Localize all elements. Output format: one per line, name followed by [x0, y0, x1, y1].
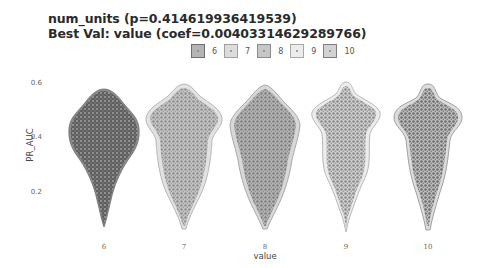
x-tick-8: 8	[263, 243, 267, 251]
y-tick-0.2: 0.2	[31, 188, 42, 196]
x-tick-9: 9	[344, 243, 348, 251]
y-axis-label: PR_AUC	[25, 128, 35, 161]
violin-10[interactable]	[394, 84, 462, 230]
violin-plot: 0.6 0.4 0.2 PR_AUC 6 7 8 9 10 value	[0, 0, 488, 268]
y-tick-0.6: 0.6	[31, 79, 43, 87]
violin-6[interactable]	[69, 89, 139, 227]
violin-8[interactable]	[230, 85, 300, 229]
x-tick-7: 7	[182, 243, 186, 251]
x-axis-label: value	[253, 251, 276, 261]
violin-7[interactable]	[146, 84, 222, 229]
x-tick-6: 6	[102, 243, 107, 251]
x-tick-10: 10	[424, 243, 433, 251]
violin-9[interactable]	[312, 82, 381, 232]
